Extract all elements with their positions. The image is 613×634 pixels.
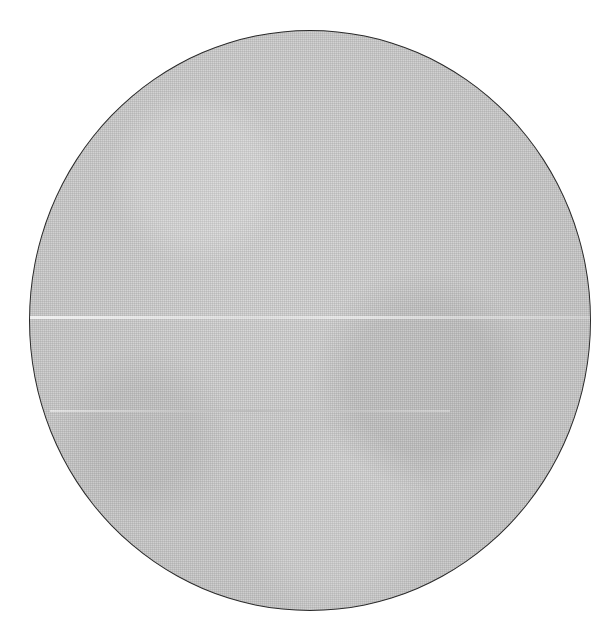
upper-light-streak [30, 316, 590, 319]
lower-light-streak [50, 410, 450, 412]
textured-disc [29, 30, 591, 611]
texture-mottling [30, 31, 590, 610]
image-canvas [0, 0, 613, 634]
